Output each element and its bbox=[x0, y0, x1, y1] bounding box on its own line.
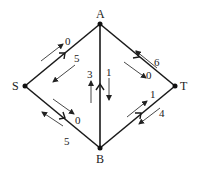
flow-label-bt-fwd: 1 bbox=[150, 88, 156, 100]
node-a bbox=[98, 22, 103, 27]
node-t bbox=[173, 84, 178, 89]
flow-arrow-sa-bwd bbox=[53, 65, 75, 82]
node-label-b: B bbox=[96, 152, 104, 166]
node-label-t: T bbox=[180, 79, 188, 93]
diagram-svg: A S T B 0 5 6 0 0 5 1 4 3 1 bbox=[0, 0, 201, 173]
edge-s-b bbox=[25, 86, 100, 148]
flow-label-ba-down: 1 bbox=[106, 66, 112, 78]
flow-label-ba-up: 3 bbox=[87, 68, 93, 80]
node-s bbox=[23, 84, 28, 89]
flow-arrow-at-fwd bbox=[124, 62, 146, 78]
node-label-a: A bbox=[96, 7, 105, 21]
flow-label-sb-bwd: 5 bbox=[64, 135, 70, 147]
edges bbox=[25, 24, 175, 148]
flow-label-at-fwd: 0 bbox=[146, 69, 152, 81]
flow-network-diagram: A S T B 0 5 6 0 0 5 1 4 3 1 bbox=[0, 0, 201, 173]
flow-arrow-bt-bwd bbox=[139, 108, 160, 124]
flow-arrow-bt-fwd bbox=[127, 101, 147, 117]
flow-label-at-bwd: 6 bbox=[154, 56, 160, 68]
flow-label-sa-fwd: 0 bbox=[65, 35, 71, 47]
flow-label-sa-bwd: 5 bbox=[74, 52, 80, 64]
node-label-s: S bbox=[12, 79, 19, 93]
flow-label-sb-fwd: 0 bbox=[75, 114, 81, 126]
flow-label-bt-bwd: 4 bbox=[159, 107, 165, 119]
node-b bbox=[98, 146, 103, 151]
